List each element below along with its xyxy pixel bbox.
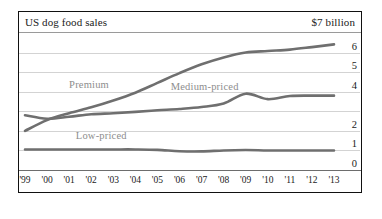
x-axis: '99'00'01'02'03'04'05'06'07'08'09'10'11'…	[19, 170, 361, 191]
x-axis-tick-label: '11	[284, 175, 295, 186]
series-label-low-priced: Low-priced	[76, 130, 127, 142]
series-line-low-priced	[25, 149, 334, 151]
series-line-medium-priced	[25, 94, 334, 119]
chart-figure: US dog food sales $7 billion PremiumMedi…	[18, 11, 362, 193]
plot-area: PremiumMedium-pricedLow-priced	[19, 33, 360, 170]
chart-header: US dog food sales $7 billion	[19, 12, 361, 33]
x-axis-tick-label: '12	[306, 175, 317, 186]
x-axis-tick-label: '09	[240, 175, 251, 186]
series-label-premium: Premium	[69, 79, 109, 91]
x-axis-tick-label: '02	[86, 175, 97, 186]
chart-unit-label: $7 billion	[312, 15, 355, 29]
x-axis-tick-label: '08	[218, 175, 229, 186]
x-axis-tick-label: '01	[63, 175, 74, 186]
series-lines	[19, 33, 360, 170]
x-axis-tick-label: '03	[108, 175, 119, 186]
x-axis-tick-label: '04	[130, 175, 141, 186]
page-title: US dog food sales	[25, 15, 107, 29]
x-axis-tick-label: '00	[41, 175, 52, 186]
x-axis-tick-label: '07	[196, 175, 207, 186]
x-axis-tick-label: '10	[262, 175, 273, 186]
x-axis-tick-label: '05	[152, 175, 163, 186]
series-label-medium-priced: Medium-priced	[171, 81, 239, 93]
x-axis-tick-label: '13	[328, 175, 339, 186]
x-axis-tick-label: '99	[19, 175, 30, 186]
x-axis-tick-label: '06	[174, 175, 185, 186]
